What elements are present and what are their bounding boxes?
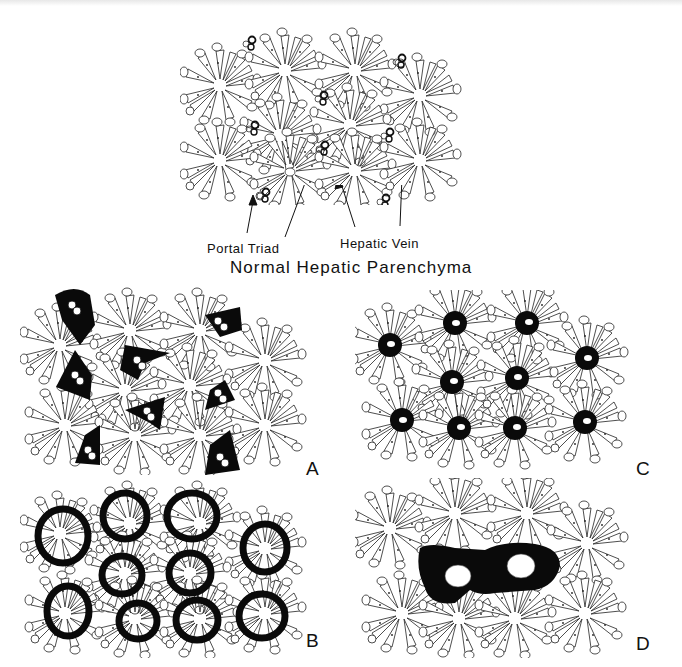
panel-b-drawing bbox=[20, 478, 310, 658]
arrowhead-icon bbox=[249, 195, 257, 205]
cropped-page-header bbox=[0, 0, 682, 6]
figure-title: Normal Hepatic Parenchyma bbox=[230, 258, 472, 278]
panel-d-label: D bbox=[636, 633, 650, 655]
panel-c-label: C bbox=[636, 458, 650, 480]
normal-parenchyma-drawing bbox=[180, 20, 470, 205]
lobule-group bbox=[180, 28, 461, 205]
panel-a-label: A bbox=[306, 458, 319, 480]
panel-a bbox=[20, 285, 310, 475]
panel-c-drawing bbox=[355, 290, 635, 480]
panel-c bbox=[355, 290, 635, 480]
panel-d bbox=[355, 478, 635, 658]
panel-b bbox=[20, 478, 310, 658]
panel-b-label: B bbox=[306, 630, 319, 652]
panel-a-drawing bbox=[20, 285, 310, 475]
panel-d-drawing bbox=[355, 478, 635, 658]
panel-normal bbox=[180, 20, 470, 205]
portal-triad-label: Portal Triad bbox=[207, 241, 279, 256]
hepatic-vein-label: Hepatic Vein bbox=[340, 236, 419, 251]
